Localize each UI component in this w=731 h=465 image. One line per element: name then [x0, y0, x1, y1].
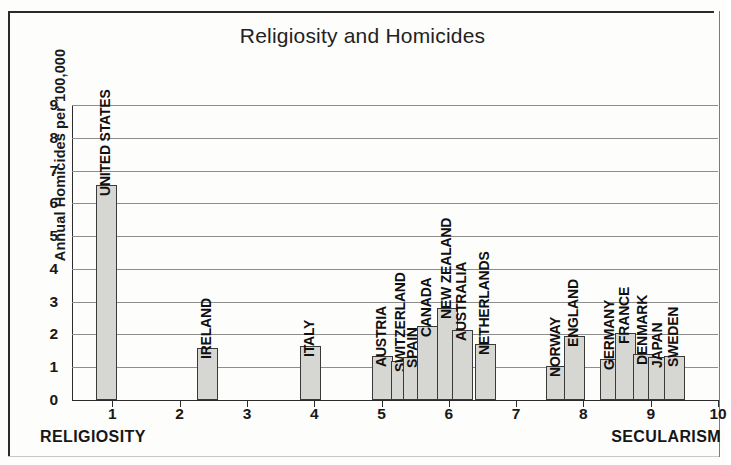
bar-label: IRELAND — [198, 298, 214, 359]
bar-label: SWEDEN — [665, 307, 681, 367]
x-tick-label: 6 — [429, 405, 469, 423]
plot-area: UNITED STATESIRELANDITALYAUSTRIASWITZERL… — [72, 105, 718, 400]
gridline — [72, 269, 718, 270]
figure-border-top — [8, 11, 714, 13]
x-tick-label: 2 — [160, 405, 200, 423]
gridline — [72, 171, 718, 172]
y-axis-tick-labels: 0123456789 — [0, 105, 66, 400]
bar-label: NETHERLANDS — [476, 252, 492, 356]
bar-label: CANADA — [418, 278, 434, 337]
x-tick-label: 7 — [496, 405, 536, 423]
bar-label: AUSTRALIA — [453, 261, 469, 340]
bar-label: NEW ZEALAND — [438, 218, 454, 319]
bar-label: ITALY — [301, 320, 317, 357]
y-tick-label: 6 — [8, 195, 58, 211]
gridline — [72, 203, 718, 204]
bar-label: UNITED STATES — [97, 90, 113, 197]
y-tick-label: 5 — [8, 228, 58, 244]
x-tick-label: 4 — [294, 405, 334, 423]
gridline — [72, 138, 718, 139]
y-axis-line — [72, 105, 73, 400]
bar-label: FRANCE — [616, 287, 632, 344]
y-tick-label: 0 — [8, 392, 58, 408]
gridline — [72, 236, 718, 237]
chart-title: Religiosity and Homicides — [0, 24, 725, 48]
x-tick-label: 10 — [698, 405, 731, 423]
y-tick-label: 2 — [8, 326, 58, 342]
y-tick-label: 9 — [8, 97, 58, 113]
bar — [96, 185, 117, 400]
x-tick-label: 9 — [631, 405, 671, 423]
x-axis-line — [72, 400, 718, 401]
figure-border-right — [719, 11, 720, 457]
x-tick-label: 1 — [92, 405, 132, 423]
bar-label: ENGLAND — [565, 279, 581, 347]
axis-annotation-secularism: SECULARISM — [611, 428, 721, 446]
bar-label: AUSTRIA — [373, 306, 389, 367]
bar-label: NORWAY — [547, 316, 563, 376]
x-tick-label: 5 — [362, 405, 402, 423]
axis-annotation-religiosity: RELIGIOSITY — [40, 428, 146, 446]
y-tick-label: 3 — [8, 294, 58, 310]
x-tick-label: 3 — [227, 405, 267, 423]
y-tick-label: 4 — [8, 261, 58, 277]
x-tick-label: 8 — [563, 405, 603, 423]
y-tick-label: 1 — [8, 359, 58, 375]
figure-border-bottom — [8, 456, 719, 457]
gridline — [72, 105, 718, 106]
y-tick-label: 8 — [8, 130, 58, 146]
y-tick-label: 7 — [8, 163, 58, 179]
bar — [417, 326, 438, 400]
